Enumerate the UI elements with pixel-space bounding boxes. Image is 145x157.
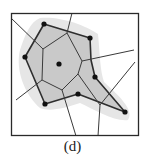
site-point — [122, 109, 127, 114]
voronoi-diagram — [0, 0, 145, 157]
site-point — [75, 91, 80, 96]
site-point-center — [56, 61, 61, 66]
site-point — [22, 54, 27, 59]
site-point — [87, 35, 92, 40]
site-point — [41, 21, 46, 26]
figure-caption: (d) — [0, 136, 145, 156]
site-point — [92, 74, 97, 79]
site-point — [42, 101, 47, 106]
